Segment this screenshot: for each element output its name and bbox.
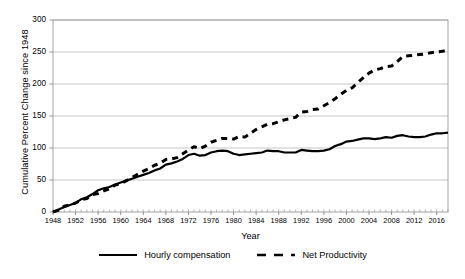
x-axis-minor-ticks — [50, 20, 449, 215]
series-line-net-productivity — [53, 50, 448, 212]
y-tick-label: 150 — [20, 112, 46, 120]
x-axis-title: Year — [53, 231, 448, 241]
legend-swatch-dashed-icon — [256, 250, 296, 260]
y-tick-label: 300 — [20, 16, 46, 24]
y-tick-label: 0 — [20, 208, 46, 216]
legend-label-hourly-compensation: Hourly compensation — [144, 250, 230, 260]
legend-item-net-productivity: Net Productivity — [256, 250, 366, 260]
y-tick-label: 200 — [20, 80, 46, 88]
gridlines — [53, 20, 448, 180]
legend-label-net-productivity: Net Productivity — [302, 250, 366, 260]
legend-swatch-solid-icon — [98, 250, 138, 260]
x-tick-label: 2016 — [422, 217, 452, 225]
y-tick-label: 250 — [20, 48, 46, 56]
series-line-hourly-compensation — [53, 133, 448, 212]
data-series-group — [53, 50, 448, 212]
chart-legend: Hourly compensation Net Productivity — [0, 250, 465, 260]
legend-item-hourly-compensation: Hourly compensation — [98, 250, 230, 260]
y-tick-label: 100 — [20, 144, 46, 152]
y-tick-label: 50 — [20, 176, 46, 184]
chart-container: Cumulative Percent Change since 1948 050… — [0, 0, 465, 279]
